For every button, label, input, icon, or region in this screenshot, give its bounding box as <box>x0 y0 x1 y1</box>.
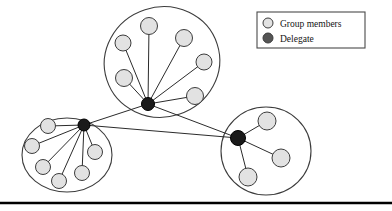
legend-member-circle-icon <box>263 18 273 28</box>
inter-group-edge <box>84 125 238 138</box>
group-member-node[interactable] <box>41 119 56 134</box>
top-group-outline <box>90 0 234 132</box>
group-member-node[interactable] <box>196 54 212 70</box>
group-member-node[interactable] <box>239 168 257 186</box>
legend: Group membersDelegate <box>257 12 365 48</box>
group-member-node[interactable] <box>52 174 67 189</box>
group-member-node[interactable] <box>272 149 290 167</box>
group-member-node[interactable] <box>88 145 103 160</box>
group-member-node[interactable] <box>25 139 40 154</box>
delegate-node[interactable] <box>231 131 246 146</box>
legend-delegate-circle-icon <box>263 33 273 43</box>
inter-group-edge <box>84 104 148 125</box>
network-delegate-diagram: Group membersDelegate <box>0 0 392 211</box>
group-member-node[interactable] <box>116 70 133 87</box>
top-group-edge <box>148 38 184 104</box>
group-member-node[interactable] <box>258 112 276 130</box>
group-member-node[interactable] <box>187 88 204 105</box>
top-group-edge <box>148 26 149 104</box>
group-member-node[interactable] <box>141 18 158 35</box>
delegate-node[interactable] <box>142 98 155 111</box>
legend-item-label: Group members <box>280 19 342 29</box>
delegate-node[interactable] <box>78 119 90 131</box>
group-member-node[interactable] <box>176 30 193 47</box>
group-member-node[interactable] <box>36 160 51 175</box>
group-member-node[interactable] <box>115 35 131 51</box>
legend-item-label: Delegate <box>280 34 314 44</box>
inter-group-edge <box>148 104 238 138</box>
group-member-node[interactable] <box>75 166 90 181</box>
